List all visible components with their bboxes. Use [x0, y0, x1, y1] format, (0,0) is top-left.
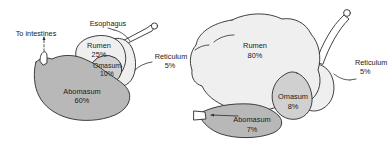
abomasum-percent-left: 60%: [75, 96, 90, 105]
right-panel-mature: Rumen 80% Omasum 8% Abomasum 7% Reticulu…: [190, 10, 387, 138]
duodenum-band-right: [194, 111, 206, 120]
reticulum-percent-left: 5%: [165, 61, 176, 70]
omasum-label-left: Omasum: [93, 62, 121, 69]
ruminant-stomach-figure: Esophagus To intestines Rumen 25% Omasum…: [0, 0, 390, 143]
abomasum-label-right: Abomasum: [233, 115, 270, 124]
reticulum-label-right: Reticulum: [355, 58, 387, 67]
reticulum-label-left: Reticulum: [155, 52, 187, 61]
omasum-percent-left: 10%: [100, 70, 114, 77]
reticulum-leader-right: [334, 74, 350, 80]
reticulum-percent-right: 5%: [360, 67, 371, 76]
to-intestines-label-left: To intestines: [16, 29, 57, 38]
left-panel-calf: Esophagus To intestines Rumen 25% Omasum…: [16, 19, 188, 120]
rumen-label-left: Rumen: [87, 41, 111, 50]
abomasum-percent-right: 7%: [247, 125, 258, 134]
diagram-canvas: Esophagus To intestines Rumen 25% Omasum…: [0, 0, 390, 143]
rumen-label-right: Rumen: [243, 41, 267, 50]
reticulum-leader-left: [135, 62, 152, 70]
rumen-percent-left: 25%: [92, 50, 107, 59]
omasum-label-right: Omasum: [278, 92, 308, 101]
reticulum-leader-right-tail: [350, 79, 356, 80]
esophagus-label-left: Esophagus: [90, 19, 127, 28]
rumen-percent-right: 80%: [248, 51, 263, 60]
omasum-percent-right: 8%: [288, 102, 299, 111]
esophagus-tube-right: [316, 10, 350, 64]
abomasum-label-left: Abomasum: [63, 87, 100, 96]
esophagus-leader-left-tail: [108, 28, 114, 30]
